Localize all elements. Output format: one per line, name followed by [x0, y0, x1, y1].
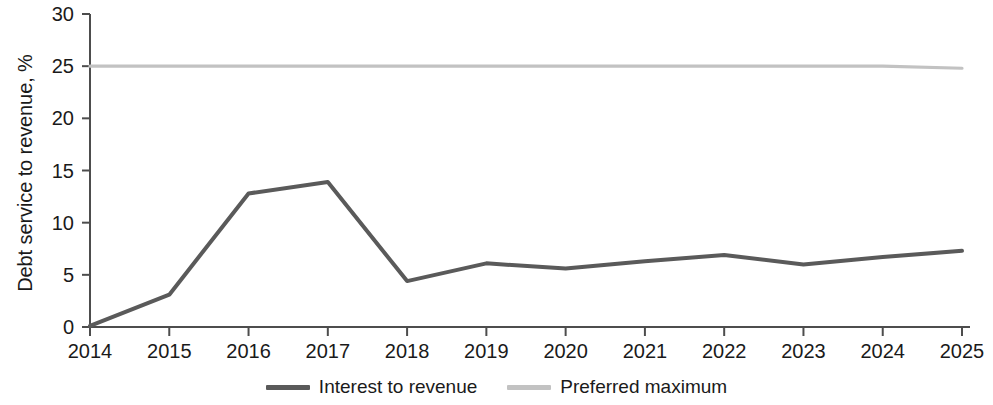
x-axis-tick-label: 2017 — [306, 341, 351, 361]
x-axis-tick-label: 2025 — [940, 341, 985, 361]
legend-label: Preferred maximum — [560, 376, 727, 398]
legend-item[interactable]: Interest to revenue — [266, 376, 477, 398]
legend-item[interactable]: Preferred maximum — [507, 376, 727, 398]
x-axis-tick-label: 2015 — [147, 341, 192, 361]
x-axis-ticks — [90, 327, 962, 336]
x-axis-tick-label: 2020 — [543, 341, 588, 361]
legend-swatch-icon — [507, 385, 551, 390]
x-axis-tick-label: 2021 — [623, 341, 668, 361]
x-axis-tick-label: 2014 — [68, 341, 113, 361]
x-axis-tick-label: 2023 — [781, 341, 826, 361]
chart-container: Debt service to revenue, % 051015202530 … — [0, 0, 993, 405]
x-axis-tick-label: 2022 — [702, 341, 747, 361]
legend-label: Interest to revenue — [319, 376, 477, 398]
x-axis-tick-labels: 2014201520162017201820192020202120222023… — [0, 341, 993, 369]
x-axis-tick-label: 2018 — [385, 341, 430, 361]
series-lines — [90, 66, 962, 326]
x-axis-tick-label: 2016 — [226, 341, 271, 361]
y-axis-ticks — [82, 14, 90, 327]
chart-legend: Interest to revenuePreferred maximum — [0, 376, 993, 398]
x-axis-tick-label: 2024 — [860, 341, 905, 361]
legend-swatch-icon — [266, 385, 310, 390]
axes-group — [90, 14, 970, 327]
series-line-1 — [90, 66, 962, 68]
series-line-0 — [90, 182, 962, 326]
x-axis-tick-label: 2019 — [464, 341, 509, 361]
